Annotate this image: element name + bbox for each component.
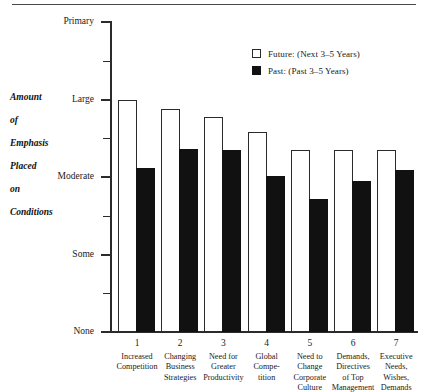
bar-group <box>204 22 242 332</box>
bar-past <box>136 168 155 332</box>
bar-future <box>334 150 353 332</box>
bar-group <box>118 22 156 332</box>
top-divider-rule <box>12 4 416 5</box>
bar-group <box>334 22 372 332</box>
y-axis-title-line: of <box>10 109 76 132</box>
x-axis-category-label-line: Demands <box>365 383 427 392</box>
bar-future <box>291 150 310 332</box>
bar-past <box>266 176 285 332</box>
y-axis-title-line: Emphasis <box>10 132 76 155</box>
bar-past <box>179 149 198 332</box>
y-axis-minor-tick <box>103 216 110 217</box>
y-axis-title: Amount of Emphasis Placed on Conditions <box>10 86 76 224</box>
y-axis-minor-tick <box>103 293 110 294</box>
y-axis-tick-label: Some <box>2 249 94 259</box>
y-axis-minor-tick <box>103 61 110 62</box>
x-axis-category-label: ExecutiveNeeds,Wishes,Demands <box>365 352 427 392</box>
bar-future <box>248 132 267 332</box>
bar-future <box>377 150 396 332</box>
bar-future <box>204 117 223 332</box>
bar-past <box>352 181 371 332</box>
y-axis-tick-label: Large <box>2 94 94 104</box>
bar-group <box>161 22 199 332</box>
y-axis-title-line: Conditions <box>10 201 76 224</box>
x-axis-category-label-line: Needs, <box>365 362 427 372</box>
chart-figure: Amount of Emphasis Placed on Conditions … <box>0 0 428 392</box>
bar-group <box>377 22 415 332</box>
y-axis-tick-label: Moderate <box>2 171 94 181</box>
bar-past <box>309 199 328 332</box>
bar-past <box>395 170 414 332</box>
y-axis-title-line: on <box>10 178 76 201</box>
x-axis-category-label-line: Wishes, <box>365 373 427 383</box>
bar-past <box>222 150 241 332</box>
plot-area <box>110 22 418 332</box>
bar-future <box>161 109 180 332</box>
bar-group <box>291 22 329 332</box>
x-axis-tick-number: 7 <box>366 338 426 348</box>
bar-future <box>118 100 137 333</box>
bar-group <box>248 22 286 332</box>
y-axis-minor-tick <box>103 138 110 139</box>
y-axis-tick-label: Primary <box>2 16 94 26</box>
x-axis-category-label-line: Executive <box>365 352 427 362</box>
y-axis-tick-label: None <box>2 326 94 336</box>
